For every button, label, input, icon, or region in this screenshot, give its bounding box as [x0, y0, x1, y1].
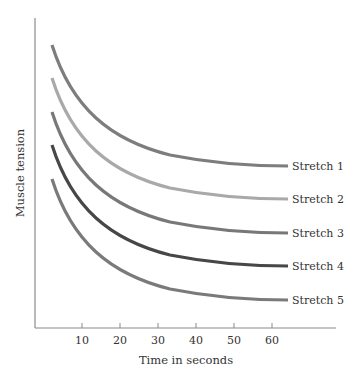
x-ticks	[82, 323, 272, 328]
series-label-stretch-1: Stretch 1	[292, 160, 344, 173]
series-label-stretch-5: Stretch 5	[292, 294, 344, 307]
series-stretch-1	[52, 45, 288, 166]
series-stretch-3	[52, 112, 288, 233]
series-label-stretch-3: Stretch 3	[292, 227, 344, 240]
y-axis-label: Muscle tension	[13, 128, 27, 217]
series-stretch-4	[52, 145, 288, 266]
x-tick-labels: 10 20 30 40 50 60	[75, 334, 279, 347]
tick-label: 20	[113, 334, 127, 347]
series-stretch-2	[52, 78, 288, 199]
tick-label: 10	[75, 334, 89, 347]
tick-label: 60	[265, 334, 279, 347]
series-label-stretch-2: Stretch 2	[292, 193, 344, 206]
tick-label: 40	[189, 334, 203, 347]
chart: 10 20 30 40 50 60 Time in seconds Muscle…	[0, 0, 354, 378]
tick-label: 30	[151, 334, 165, 347]
x-axis-label: Time in seconds	[139, 353, 233, 367]
tick-label: 50	[227, 334, 241, 347]
series-label-stretch-4: Stretch 4	[292, 260, 344, 273]
